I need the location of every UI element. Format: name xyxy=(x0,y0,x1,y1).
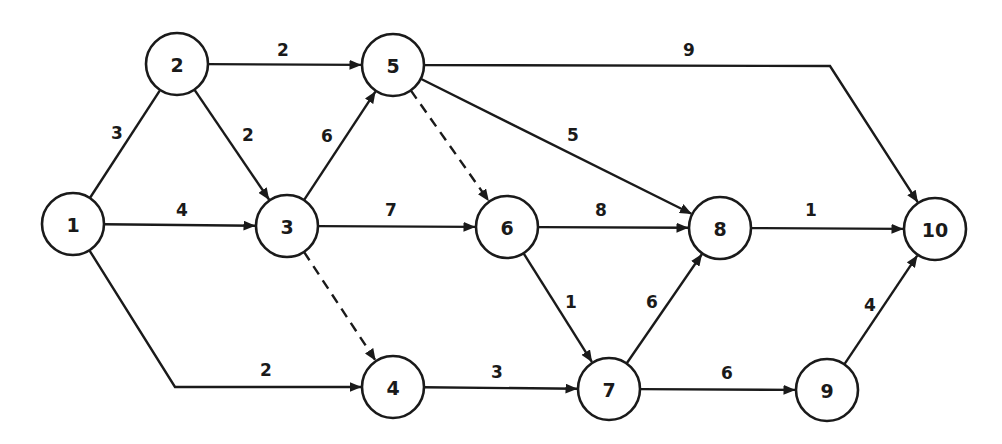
edge-weight-9-10: 4 xyxy=(864,295,876,315)
node-10: 10 xyxy=(904,198,966,260)
activity-network-diagram: 3422267598136614 12345678910 xyxy=(0,0,1002,444)
node-label: 7 xyxy=(602,379,615,401)
edge-weight-5-10: 9 xyxy=(683,40,695,60)
edge-weight-8-10: 1 xyxy=(805,200,817,220)
edge-weight-1-2: 3 xyxy=(111,123,123,143)
node-4: 4 xyxy=(362,356,424,418)
node-label: 1 xyxy=(66,214,79,236)
edge-weight-2-3: 2 xyxy=(242,125,254,145)
edge-weight-6-7: 1 xyxy=(565,292,577,312)
arrow-icon xyxy=(304,92,375,200)
arrow-icon xyxy=(640,389,795,390)
edge-weight-1-4: 2 xyxy=(260,360,272,380)
arrow-icon xyxy=(104,224,255,225)
arrow-icon xyxy=(424,65,918,202)
node-label: 5 xyxy=(386,55,399,77)
edge-2-to-3 xyxy=(194,90,269,200)
node-label: 2 xyxy=(170,54,183,76)
arrow-icon xyxy=(627,254,702,363)
arrow-icon xyxy=(89,250,361,387)
arrow-icon xyxy=(194,90,269,200)
connector-line xyxy=(90,91,160,198)
arrow-icon xyxy=(421,79,692,214)
arrow-icon xyxy=(318,226,475,227)
edge-weight-5-8: 5 xyxy=(567,125,579,145)
node-1: 1 xyxy=(42,193,104,255)
arrow-icon xyxy=(208,64,361,65)
arrow-icon xyxy=(524,253,592,362)
node-7: 7 xyxy=(578,358,640,420)
node-8: 8 xyxy=(689,197,751,259)
edge-weight-7-9: 6 xyxy=(721,363,733,383)
arrow-icon xyxy=(424,387,577,388)
edge-6-to-7 xyxy=(524,253,592,362)
node-label: 9 xyxy=(820,380,833,402)
edge-8-to-10 xyxy=(751,228,903,229)
arrow-icon xyxy=(304,252,375,360)
node-3: 3 xyxy=(256,195,318,257)
node-9: 9 xyxy=(796,359,858,421)
arrow-icon xyxy=(751,228,903,229)
node-label: 8 xyxy=(713,218,726,240)
node-label: 4 xyxy=(386,377,399,399)
node-label: 3 xyxy=(280,216,293,238)
edge-5-to-10 xyxy=(424,65,918,202)
edge-1-to-2 xyxy=(90,91,160,198)
edge-2-to-5 xyxy=(208,64,361,65)
edge-weight-1-3: 4 xyxy=(176,200,188,220)
edge-6-to-8 xyxy=(538,227,688,228)
edge-weight-2-5: 2 xyxy=(277,40,289,60)
edge-3-to-4-dummy xyxy=(304,252,375,360)
edge-3-to-5 xyxy=(304,92,375,200)
node-6: 6 xyxy=(476,196,538,258)
edge-weight-3-5: 6 xyxy=(321,126,333,146)
arrow-icon xyxy=(538,227,688,228)
edge-1-to-3 xyxy=(104,224,255,225)
edge-weight-3-6: 7 xyxy=(385,200,397,220)
node-5: 5 xyxy=(362,34,424,96)
edge-3-to-6 xyxy=(318,226,475,227)
edge-weight-7-8: 6 xyxy=(646,292,658,312)
edge-5-to-8 xyxy=(421,79,692,214)
edge-4-to-7 xyxy=(424,387,577,388)
edge-weight-4-7: 3 xyxy=(491,362,503,382)
edge-7-to-8 xyxy=(627,254,702,363)
node-label: 6 xyxy=(500,217,513,239)
node-label: 10 xyxy=(922,219,948,241)
edge-7-to-9 xyxy=(640,389,795,390)
edge-1-to-4 xyxy=(89,250,361,387)
node-2: 2 xyxy=(146,33,208,95)
arrow-icon xyxy=(844,256,917,365)
edge-9-to-10 xyxy=(844,256,917,365)
nodes-layer: 12345678910 xyxy=(42,33,966,421)
edge-weight-6-8: 8 xyxy=(595,200,607,220)
